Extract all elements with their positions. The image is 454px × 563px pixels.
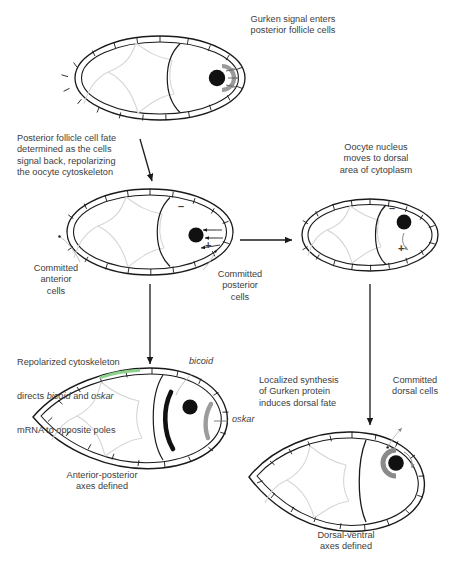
follicle-cell-divisions [257, 432, 425, 531]
figure-canvas: Gurken signal enters posterior follicle … [0, 0, 454, 563]
leader-committed-posterior [203, 252, 215, 270]
panel-1-gurken-signal [62, 36, 246, 121]
nurse-cell-outlines [265, 446, 349, 518]
oocyte-boundary [167, 44, 180, 113]
caption-repolarized-line2: directs bicoid and oskar [17, 391, 197, 402]
caption-committed-posterior: Committed posterior cells [198, 269, 282, 303]
oocyte-nucleus [188, 227, 203, 242]
text-directs: directs [17, 391, 47, 401]
gurken-signal-arrow [404, 452, 412, 468]
text-and: and [71, 391, 91, 401]
caption-committed-dorsal: Committed dorsal cells [378, 375, 452, 398]
caption-dv-axes: Dorsal-ventral axes defined [276, 530, 416, 553]
label-oskar: oskar [232, 414, 254, 425]
panel-3-nucleus-migration [302, 199, 438, 271]
plus-end-sign-panel3: + [398, 243, 404, 254]
gene-oskar: oskar [91, 391, 113, 401]
caption-oocyte-nucleus-moves: Oocyte nucleus moves to dorsal area of c… [312, 142, 440, 176]
follicle-inner-boundary [308, 205, 432, 266]
oskar-mrna-crescent [206, 404, 211, 438]
follicle-outer-boundary [249, 432, 424, 531]
leader-dot-anterior [58, 235, 60, 237]
panel-5-dv-axes [249, 428, 425, 531]
leader-dot-posterior [214, 250, 216, 252]
leader-dot-dorsal [386, 446, 388, 448]
plus-end-sign-panel2: + [205, 240, 211, 251]
minus-end-sign-panel3: – [389, 203, 395, 214]
nurse-cell-outlines [74, 197, 164, 267]
caption-repolarized-line3: mRNA to opposite poles [17, 425, 197, 436]
minus-end-sign-panel2: – [178, 201, 184, 212]
oocyte-boundary [157, 198, 170, 267]
caption-committed-anterior: Committed anterior cells [14, 263, 98, 297]
gene-bicoid: bicoid [47, 391, 71, 401]
oocyte-nucleus [397, 215, 412, 230]
follicle-outer-boundary [302, 199, 438, 271]
follicle-inner-boundary [74, 195, 227, 269]
caption-gurken-enters: Gurken signal enters posterior follicle … [218, 14, 368, 37]
caption-posterior-fate: Posterior follicle cell fate determined … [17, 133, 167, 179]
oocyte-nucleus [209, 70, 225, 86]
oocyte-boundary [359, 440, 366, 522]
caption-localized-synthesis: Localized synthesis of Gurken protein in… [259, 375, 369, 409]
label-bicoid: bicoid [189, 356, 213, 367]
nurse-cell-outlines [84, 43, 174, 113]
caption-repolarized: Repolarized cytoskeleton directs bicoid … [17, 334, 197, 448]
caption-ap-axes: Anterior-posterior axes defined [32, 470, 172, 493]
oocyte-nucleus [388, 455, 404, 471]
caption-repolarized-line1: Repolarized cytoskeleton [17, 357, 197, 368]
